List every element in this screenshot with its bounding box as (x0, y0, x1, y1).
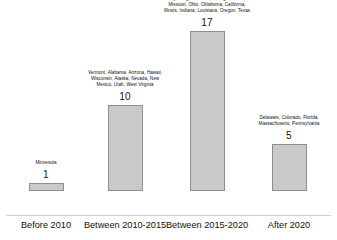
bar-column-between-2015-2020: Maine, North Carolina, Virginia, Michiga… (165, 0, 249, 191)
x-axis-baseline (6, 215, 331, 216)
bar-annotation: Maine, North Carolina, Virginia, Michiga… (161, 0, 253, 14)
bar-value-label: 10 (119, 91, 131, 102)
bar[interactable] (29, 183, 64, 191)
bar-value-label: 5 (286, 130, 292, 141)
bar-column-before-2010: Minnesota 1 (4, 0, 88, 191)
bar-annotation: Minnesota (4, 160, 88, 166)
bar[interactable] (272, 144, 307, 191)
bar-stack: Vermont, Alabama, Arizona, Hawaii, Wisco… (83, 0, 167, 191)
bar-annotation: Delaware, Colorado, Florida, Massachuset… (247, 115, 331, 127)
plot-area: Minnesota 1 Vermont, Alabama, Arizona, H… (0, 0, 337, 216)
bar-column-after-2020: Delaware, Colorado, Florida, Massachuset… (247, 0, 331, 191)
bar-value-label: 1 (43, 169, 49, 180)
bar-chart: Minnesota 1 Vermont, Alabama, Arizona, H… (0, 0, 337, 240)
bar-value-label: 17 (201, 17, 213, 28)
bar-stack: Delaware, Colorado, Florida, Massachuset… (247, 0, 331, 191)
bar-annotation: Vermont, Alabama, Arizona, Hawaii, Wisco… (83, 70, 167, 88)
x-axis-label-after-2020: After 2020 (234, 219, 337, 232)
bar-stack: Minnesota 1 (4, 0, 88, 191)
bar[interactable] (108, 105, 143, 191)
bar-stack: Maine, North Carolina, Virginia, Michiga… (165, 0, 249, 191)
bar[interactable] (190, 31, 225, 191)
bar-column-between-2010-2015: Vermont, Alabama, Arizona, Hawaii, Wisco… (83, 0, 167, 191)
x-axis-labels: Before 2010 Between 2010-2015 Between 20… (0, 219, 337, 239)
